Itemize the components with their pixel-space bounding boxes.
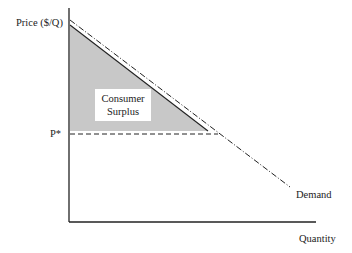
demand-label: Demand (296, 190, 332, 201)
consumer-surplus-label: Consumer Surplus (95, 89, 151, 121)
consumer-surplus-diagram (0, 0, 352, 253)
price-marker-label: P* (50, 129, 61, 140)
consumer-surplus-line1: Consumer (101, 92, 144, 105)
y-axis-label: Price ($/Q) (16, 18, 63, 29)
consumer-surplus-line2: Surplus (107, 105, 139, 118)
x-axis-label: Quantity (299, 234, 336, 245)
